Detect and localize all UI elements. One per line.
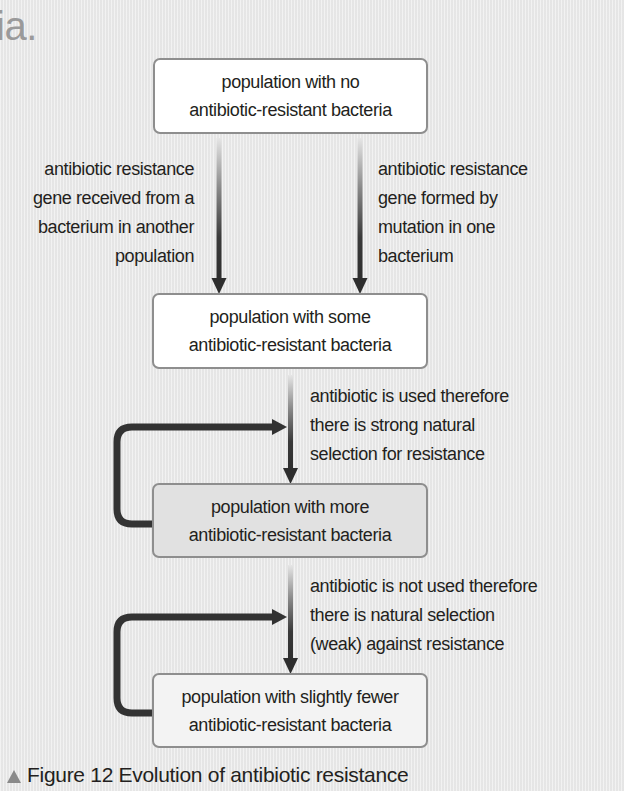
box-line: antibiotic-resistant bacteria xyxy=(189,711,392,739)
arrow-antibiotic-not-used xyxy=(283,565,298,674)
arrow-gene-transfer xyxy=(212,138,227,294)
box-line: antibiotic-resistant bacteria xyxy=(189,331,392,359)
box-line: antibiotic-resistant bacteria xyxy=(189,521,392,549)
box-line: antibiotic-resistant bacteria xyxy=(189,96,392,124)
box-population-fewer-resistant: population with slightly fewer antibioti… xyxy=(152,673,428,748)
box-line: population with slightly fewer xyxy=(181,683,398,711)
box-population-some-resistant: population with some antibiotic-resistan… xyxy=(152,293,428,369)
box-population-no-resistant: population with no antibiotic-resistant … xyxy=(153,58,428,134)
box-line: population with more xyxy=(211,493,369,521)
arrow-antibiotic-used xyxy=(283,375,298,484)
box-line: population with some xyxy=(209,303,370,331)
box-population-more-resistant: population with more antibiotic-resistan… xyxy=(152,483,428,558)
arrow-gene-mutation xyxy=(353,138,368,294)
box-line: population with no xyxy=(222,68,360,96)
